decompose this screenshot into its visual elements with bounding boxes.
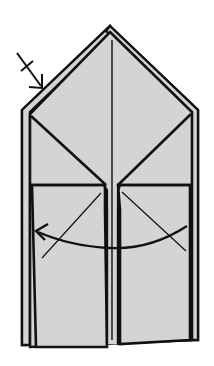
origami-diagram bbox=[0, 0, 214, 366]
diagram-canvas bbox=[0, 0, 214, 366]
valley-fold-arrow bbox=[17, 53, 42, 88]
